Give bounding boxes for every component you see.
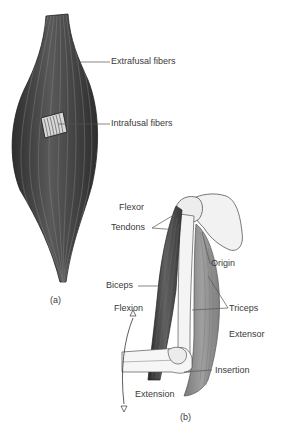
label-extension: Extension [135, 390, 175, 399]
label-triceps: Triceps [229, 304, 258, 313]
label-flexion: Flexion [114, 304, 143, 313]
label-extrafusal-fibers: Extrafusal fibers [111, 57, 176, 66]
label-tendons: Tendons [111, 223, 145, 232]
label-origin: Origin [211, 259, 235, 268]
label-flexor: Flexor [119, 203, 144, 212]
whole-muscle [12, 14, 97, 282]
label-biceps: Biceps [106, 281, 133, 290]
label-intrafusal-fibers: Intrafusal fibers [111, 119, 173, 128]
label-insertion: Insertion [215, 366, 250, 375]
label-extensor: Extensor [229, 330, 265, 339]
extension-arrowhead-icon [121, 406, 127, 412]
caption-a: (a) [50, 296, 61, 305]
caption-b: (b) [180, 413, 191, 422]
